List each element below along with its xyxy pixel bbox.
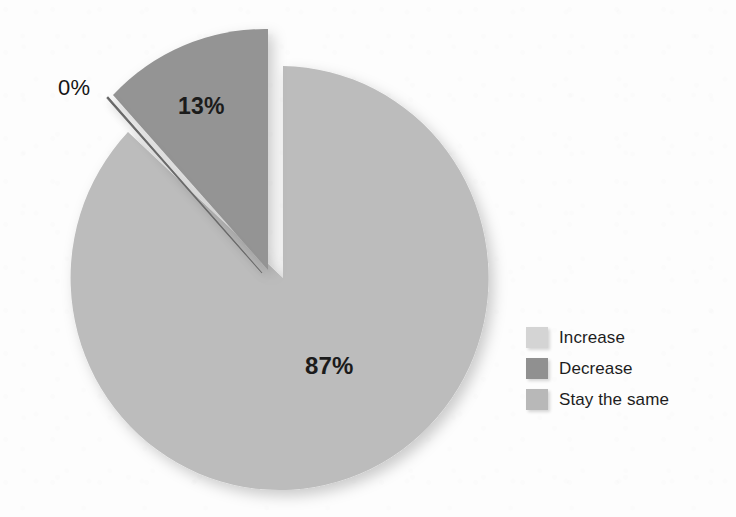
slice-label-increase: 0% — [58, 75, 90, 101]
legend-label-increase: Increase — [559, 329, 625, 346]
legend-label-decrease: Decrease — [559, 360, 633, 377]
legend-item-increase[interactable]: Increase — [526, 322, 726, 352]
slice-label-stay-the-same: 87% — [305, 352, 354, 380]
legend-item-decrease[interactable]: Decrease — [526, 353, 726, 383]
chart-legend: Increase Decrease Stay the same — [526, 322, 726, 415]
legend-swatch-stay-the-same — [526, 389, 548, 410]
slice-label-decrease: 13% — [178, 93, 225, 120]
legend-label-stay-the-same: Stay the same — [559, 391, 669, 408]
legend-swatch-decrease — [526, 358, 548, 379]
legend-swatch-increase — [526, 327, 548, 348]
legend-item-stay-the-same[interactable]: Stay the same — [526, 384, 726, 414]
pie-svg — [0, 0, 736, 517]
chart-plot-area: 87% 13% 0% — [0, 0, 736, 517]
pie-slice-stay-the-same[interactable] — [71, 66, 489, 490]
pie-chart-figure: 87% 13% 0% Increase Decrease Stay the sa… — [0, 0, 736, 517]
